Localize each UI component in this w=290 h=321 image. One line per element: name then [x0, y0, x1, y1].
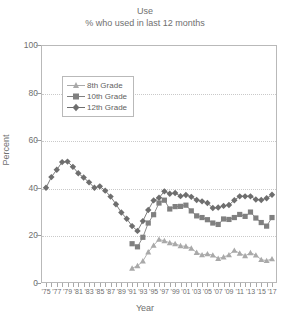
x-axis-tick-mark: [181, 283, 182, 287]
square-data-marker: [253, 215, 258, 220]
square-data-marker: [167, 206, 172, 211]
x-axis-tick-mark: [148, 283, 149, 287]
diamond-data-marker: [253, 196, 259, 202]
triangle-data-marker: [237, 250, 243, 255]
legend-label: 12th Grade: [85, 103, 127, 112]
diamond-data-marker: [113, 201, 119, 207]
square-data-marker: [242, 214, 247, 219]
diamond-data-marker: [145, 207, 151, 213]
square-data-marker: [162, 198, 167, 203]
chart-title-block: Use % who used in last 12 months: [0, 6, 290, 29]
diamond-marker-icon: [67, 102, 85, 113]
legend-item-10th-grade: 10th Grade: [67, 91, 127, 102]
diamond-data-marker: [54, 167, 60, 173]
square-data-marker: [264, 224, 269, 229]
x-axis-tick-mark: [73, 283, 74, 287]
square-data-marker: [178, 204, 183, 209]
x-axis-tick-mark: [229, 283, 230, 287]
series-line: [132, 200, 272, 247]
diamond-data-marker: [150, 197, 156, 203]
triangle-data-marker: [140, 258, 146, 263]
square-data-marker: [269, 215, 274, 220]
x-axis-tick-mark: [46, 283, 47, 287]
triangle-data-marker: [204, 251, 210, 256]
triangle-data-marker: [156, 236, 162, 241]
diamond-data-marker: [220, 203, 226, 209]
x-axis-tick-mark: [100, 283, 101, 287]
square-data-marker: [248, 209, 253, 214]
x-axis-tick-mark: [57, 283, 58, 287]
x-axis-label: Year: [0, 303, 290, 313]
x-axis-tick-mark: [89, 283, 90, 287]
diamond-data-marker: [167, 191, 173, 197]
x-axis-tick-mark: [186, 283, 187, 287]
legend-item-8th-grade: 8th Grade: [67, 80, 127, 91]
square-data-marker: [194, 213, 199, 218]
x-axis-tick-mark: [62, 283, 63, 287]
triangle-data-marker: [221, 254, 227, 259]
legend-label: 10th Grade: [85, 92, 127, 101]
y-axis-tick-label: 0: [14, 278, 38, 288]
x-axis-tick-mark: [68, 283, 69, 287]
triangle-data-marker: [129, 265, 135, 270]
x-axis-tick-mark: [218, 283, 219, 287]
square-data-marker: [221, 216, 226, 221]
y-axis-tick-label: 20: [14, 230, 38, 240]
triangle-data-marker: [253, 252, 259, 257]
diamond-data-marker: [183, 192, 189, 198]
x-axis-tick-mark: [116, 283, 117, 287]
diamond-data-marker: [59, 159, 65, 165]
square-data-marker: [129, 241, 134, 246]
x-axis-tick-mark: [137, 283, 138, 287]
square-data-marker: [183, 203, 188, 208]
x-axis-tick-mark: [250, 283, 251, 287]
triangle-data-marker: [178, 243, 184, 248]
x-axis-tick-mark: [111, 283, 112, 287]
x-axis-tick-mark: [105, 283, 106, 287]
square-data-marker: [135, 244, 140, 249]
square-data-marker: [151, 212, 156, 217]
square-data-marker: [189, 208, 194, 213]
square-data-marker: [216, 222, 221, 227]
x-axis-tick-label: '17: [263, 288, 281, 295]
diamond-data-marker: [258, 197, 264, 203]
y-axis-tick-label: 60: [14, 135, 38, 145]
x-axis-tick-mark: [256, 283, 257, 287]
square-data-marker: [237, 212, 242, 217]
diamond-data-marker: [48, 174, 54, 180]
diamond-data-marker: [199, 198, 205, 204]
chart-subtitle: % who used in last 12 months: [0, 17, 290, 29]
square-data-marker: [199, 215, 204, 220]
x-axis-tick-mark: [127, 283, 128, 287]
triangle-marker-icon: [67, 80, 85, 91]
y-axis-tick-label: 100: [14, 40, 38, 50]
x-axis-tick-mark: [202, 283, 203, 287]
square-data-marker: [156, 200, 161, 205]
legend-item-12th-grade: 12th Grade: [67, 102, 127, 113]
diamond-data-marker: [263, 195, 269, 201]
diamond-data-marker: [188, 194, 194, 200]
chart-legend: 8th Grade 10th Grade 12th Grade: [62, 76, 134, 117]
y-axis-tick-label: 40: [14, 183, 38, 193]
diamond-data-marker: [215, 204, 221, 210]
x-axis-tick-mark: [245, 283, 246, 287]
x-axis-tick-mark: [121, 283, 122, 287]
triangle-data-marker: [247, 250, 253, 255]
x-axis-tick-mark: [94, 283, 95, 287]
x-axis-tick-mark: [132, 283, 133, 287]
square-data-marker: [259, 220, 264, 225]
x-axis-tick-mark: [191, 283, 192, 287]
chart-title: Use: [0, 6, 290, 17]
x-axis-tick-mark: [272, 283, 273, 287]
x-axis-tick-mark: [240, 283, 241, 287]
triangle-data-marker: [231, 247, 237, 252]
diamond-data-marker: [140, 218, 146, 224]
diamond-data-marker: [172, 190, 178, 196]
chart-container: Use % who used in last 12 months Percent…: [0, 0, 290, 321]
diamond-data-marker: [247, 193, 253, 199]
triangle-data-marker: [269, 256, 275, 261]
x-axis-tick-mark: [224, 283, 225, 287]
y-axis-label: Percent: [1, 120, 11, 180]
x-axis-tick-mark: [159, 283, 160, 287]
x-axis-tick-mark: [267, 283, 268, 287]
